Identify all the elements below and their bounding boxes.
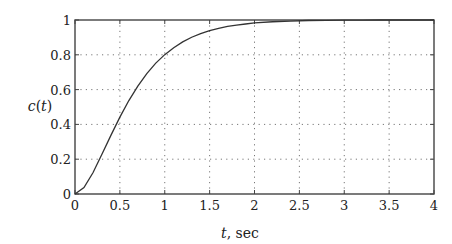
x-axis-label: t, sec bbox=[221, 225, 259, 241]
y-tick-labels: 00.20.40.60.81 bbox=[50, 13, 71, 202]
x-tick-label: 0.5 bbox=[110, 198, 131, 213]
x-tick-labels: 00.511.522.533.54 bbox=[71, 198, 438, 213]
y-tick-label: 0.6 bbox=[50, 83, 71, 98]
y-axis-label-func: c bbox=[28, 98, 36, 114]
y-tick-label: 0.4 bbox=[50, 117, 71, 132]
x-tick-label: 1 bbox=[161, 198, 169, 213]
x-tick-label: 3 bbox=[340, 198, 348, 213]
y-axis-label: c(t) bbox=[28, 98, 52, 114]
x-tick-label: 2 bbox=[250, 198, 258, 213]
y-axis-label-paren-close: ) bbox=[47, 98, 52, 114]
y-tick-label: 0.2 bbox=[50, 152, 71, 167]
x-tick-label: 1.5 bbox=[199, 198, 220, 213]
x-tick-label: 4 bbox=[430, 198, 438, 213]
x-axis-label-unit: , sec bbox=[227, 225, 259, 241]
y-tick-label: 1 bbox=[63, 13, 71, 28]
x-tick-label: 2.5 bbox=[289, 198, 310, 213]
grid-lines bbox=[75, 20, 434, 194]
y-tick-label: 0.8 bbox=[50, 48, 71, 63]
y-tick-label: 0 bbox=[63, 187, 71, 202]
x-tick-label: 3.5 bbox=[379, 198, 400, 213]
step-response-chart: 00.511.522.533.54 00.20.40.60.81 t, sec … bbox=[0, 0, 452, 244]
x-tick-label: 0 bbox=[71, 198, 79, 213]
